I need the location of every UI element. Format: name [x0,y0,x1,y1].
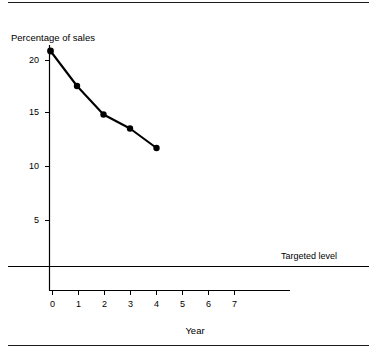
figure-container: Percentage of sales [0,0,377,353]
x-tick-label-6: 6 [201,299,217,309]
data-line-percentage-of-sales [51,51,157,148]
targeted-level-label: Targeted level [281,251,337,261]
data-point-year-0 [47,48,54,55]
y-tick-label-15: 15 [13,107,39,117]
x-tick-label-7: 7 [227,299,243,309]
x-tick-label-0: 0 [45,299,61,309]
y-tick-label-10: 10 [13,161,39,171]
x-axis-title: Year [185,325,204,336]
x-tick-label-2: 2 [97,299,113,309]
data-point-year-2 [100,111,106,117]
data-point-year-3 [127,125,133,131]
data-point-year-1 [74,83,80,89]
y-tick-label-20: 20 [13,55,39,65]
x-axis-title-wrapper: Year [49,320,341,338]
x-tick-label-1: 1 [71,299,87,309]
x-tick-label-4: 4 [149,299,165,309]
y-tick-label-5: 5 [13,215,39,225]
data-point-year-4 [153,145,159,151]
x-tick-label-3: 3 [123,299,139,309]
x-tick-label-5: 5 [175,299,191,309]
